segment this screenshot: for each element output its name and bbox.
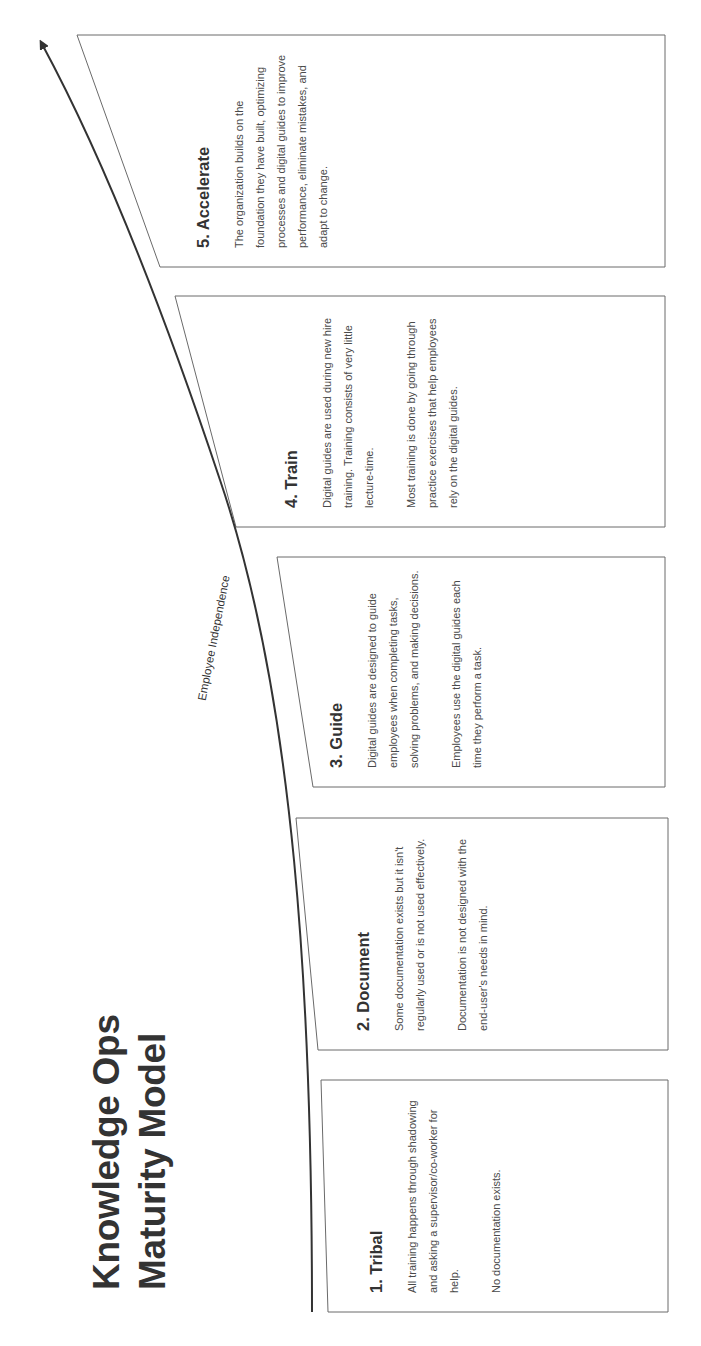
stage-5-box [77,35,665,267]
stage-1-description-1: All training happens through shadowing a… [402,1093,465,1293]
stage-2-description-2: Documentation is not designed with the e… [452,831,494,1031]
stage-1-title: 1. Tribal [366,1093,386,1293]
stage-4-description-2: Most training is done by going through p… [401,308,464,508]
stage-5-content: 5. Accelerate The organization builds on… [193,38,355,266]
page-title-line-1: Knowledge Ops [84,870,130,1290]
stage-2-content: 2. Document Some documentation exists bu… [353,821,515,1049]
stage-1-content: 1. Tribal All training happens through s… [366,1083,528,1311]
stage-4-title: 4. Train [281,308,301,508]
stage-4-content: 4. Train Digital guides are used during … [281,298,485,526]
stage-1-description-2: No documentation exists. [486,1093,507,1293]
stage-5-description: The organization builds on the foundatio… [229,48,334,248]
stage-3-description-1: Digital guides are designed to guide emp… [362,568,425,768]
stage-3-content: 3. Guide Digital guides are designed to … [326,558,509,786]
stage-4-description-1: Digital guides are used during new hire … [317,308,380,508]
page-title-line-2: Maturity Model [130,870,176,1290]
stage-3-title: 3. Guide [326,568,346,768]
stage-2-description-1: Some documentation exists but it isn't r… [389,831,431,1031]
stage-3-description-2: Employees use the digital guides each ti… [446,568,488,768]
stage-2-title: 2. Document [353,831,373,1031]
page-title: Knowledge Ops Maturity Model [84,870,176,1290]
stage-5-title: 5. Accelerate [193,48,213,248]
